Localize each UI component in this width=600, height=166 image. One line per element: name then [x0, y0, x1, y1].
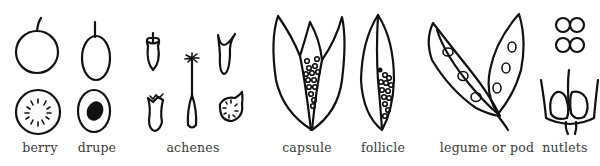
achene-5-drawing: [220, 92, 243, 121]
berry-section-drawing: [16, 90, 60, 134]
berry-whole-drawing: [16, 18, 58, 73]
legume-drawing: [429, 14, 524, 130]
capsule-drawing: [273, 16, 344, 130]
achene-1-drawing: [147, 33, 159, 70]
label-drupe: drupe: [78, 140, 116, 155]
label-legume: legume or pod: [440, 140, 534, 155]
label-capsule: capsule: [282, 140, 332, 155]
achene-2-drawing: [185, 53, 199, 128]
drupe-whole-drawing: [82, 22, 110, 80]
label-berry: berry: [22, 140, 57, 155]
drupe-section-drawing: [78, 90, 110, 132]
nutlets-top-drawing: [556, 18, 584, 52]
nutlets-side-drawing: [541, 70, 598, 134]
label-achenes: achenes: [166, 140, 219, 155]
achene-3-drawing: [218, 34, 235, 74]
label-follicle: follicle: [361, 140, 405, 155]
achene-4-drawing: [148, 94, 163, 131]
follicle-drawing: [361, 15, 394, 130]
label-nutlets: nutlets: [542, 140, 587, 155]
